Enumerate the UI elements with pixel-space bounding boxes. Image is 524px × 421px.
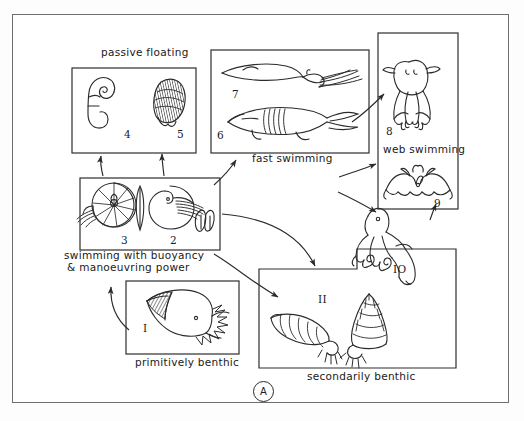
group-caption-swimming-buoyancy-line2: & manoeuvring power	[67, 261, 190, 273]
group-box-secondarily-benthic	[259, 249, 456, 368]
item-number-10: IO	[393, 263, 406, 275]
group-box-fast-swimming	[211, 50, 369, 153]
organism-coiled-spirula-shell	[88, 77, 115, 128]
group-caption-web-swimming: web swimming	[383, 143, 465, 155]
item-number-5: 5	[177, 128, 184, 140]
organism-nautilus-and-cuttlebone	[136, 186, 214, 231]
item-number-1: I	[143, 322, 147, 334]
arrow-buoyancy-to-secondarily-benthic	[222, 214, 315, 266]
arrow-buoyancy-to-floating-right	[162, 154, 164, 176]
group-caption-fast-swimming: fast swimming	[252, 152, 333, 164]
organism-cirrate-octopod-umbrella	[384, 165, 453, 199]
item-number-3: 3	[121, 234, 128, 246]
item-number-4: 4	[124, 128, 131, 140]
arrow-fast-swimming-to-secondarily-benthic	[214, 254, 278, 297]
organism-belemnite-like-cephalopod	[228, 108, 358, 140]
arrow-buoyancy-to-floating-left	[101, 156, 103, 176]
organism-squid-teuthid	[222, 64, 362, 87]
item-number-9: 9	[434, 197, 441, 209]
item-number-8: 8	[386, 125, 393, 137]
diagram-vector-layer	[0, 0, 524, 421]
item-number-6: 6	[217, 129, 224, 141]
item-number-7: 7	[232, 88, 239, 100]
arrow-buoyancy-to-fast-swimming	[214, 160, 236, 185]
item-number-2: 2	[170, 234, 177, 246]
organism-shaded-conical-shell	[154, 79, 185, 126]
panel-label-a: A	[253, 381, 274, 402]
group-caption-primitively-benthic: primitively benthic	[135, 356, 239, 368]
group-caption-passive-floating: passive floating	[101, 46, 189, 58]
organism-monoplacophoran-limpet	[147, 290, 229, 345]
item-number-11: II	[318, 293, 327, 305]
arrow-buoyancy-to-web-lower	[338, 192, 376, 212]
group-caption-swimming-buoyancy-line1: swimming with buoyancy	[64, 249, 204, 261]
group-caption-secondarily-benthic: secondarily benthic	[307, 370, 416, 382]
organism-coiled-ammonite	[77, 183, 136, 227]
arrow-buoyancy-to-web-upper	[339, 164, 376, 177]
figure-canvas: passive floating 4 5 fast swimming 7 6 w…	[0, 0, 524, 421]
arrow-fast-swimming-to-web-swimming	[352, 94, 384, 122]
organism-vampyroteuthis-webbed-octopod	[383, 60, 440, 129]
organism-two-benthic-gastropod-shells	[271, 294, 387, 368]
